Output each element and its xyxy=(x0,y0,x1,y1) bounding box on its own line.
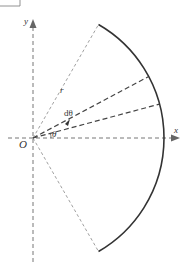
y-axis-arrow-icon xyxy=(30,19,37,28)
partial-frame xyxy=(0,0,20,6)
sector-diagram: y x O r dθ θ xyxy=(0,0,183,272)
dtheta-arrow-icon xyxy=(65,119,70,126)
theta-label: θ xyxy=(52,129,57,139)
y-axis-label: y xyxy=(23,16,28,26)
x-axis-arrow-icon xyxy=(171,135,180,142)
x-axis-label: x xyxy=(173,125,178,135)
origin-label: O xyxy=(19,138,27,150)
dtheta-label: dθ xyxy=(64,108,73,118)
theta-angle-marker xyxy=(50,133,51,138)
radius-label: r xyxy=(60,85,64,95)
sector-lower-radius xyxy=(33,138,99,251)
